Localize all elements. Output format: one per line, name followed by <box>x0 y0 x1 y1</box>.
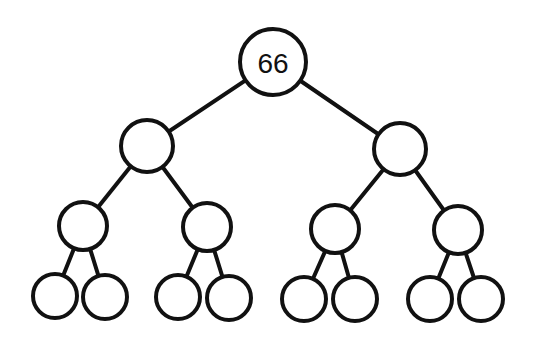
tree-node <box>156 275 200 319</box>
tree-node <box>183 203 231 251</box>
node-circle <box>311 205 359 253</box>
tree-node <box>33 274 77 318</box>
tree-edges <box>55 62 481 299</box>
node-circle <box>59 202 107 250</box>
tree-node <box>434 206 482 254</box>
node-circle <box>156 275 200 319</box>
tree-node <box>333 277 377 321</box>
node-circle <box>374 123 426 175</box>
tree-node <box>311 205 359 253</box>
node-circle <box>282 277 326 321</box>
tree-node <box>83 275 127 319</box>
tree-node <box>59 202 107 250</box>
node-circle <box>459 277 503 321</box>
node-circle <box>83 275 127 319</box>
node-label: 66 <box>257 48 288 79</box>
root-node: 66 <box>240 29 306 95</box>
node-circle <box>408 277 452 321</box>
node-circle <box>33 274 77 318</box>
node-circle <box>207 276 251 320</box>
tree-node <box>121 120 173 172</box>
tree-node <box>408 277 452 321</box>
binary-tree-diagram: 66 <box>0 0 533 347</box>
tree-node <box>282 277 326 321</box>
node-circle <box>434 206 482 254</box>
tree-nodes: 66 <box>33 29 503 321</box>
tree-node <box>459 277 503 321</box>
tree-node <box>207 276 251 320</box>
tree-node <box>374 123 426 175</box>
node-circle <box>121 120 173 172</box>
node-circle <box>333 277 377 321</box>
node-circle <box>183 203 231 251</box>
